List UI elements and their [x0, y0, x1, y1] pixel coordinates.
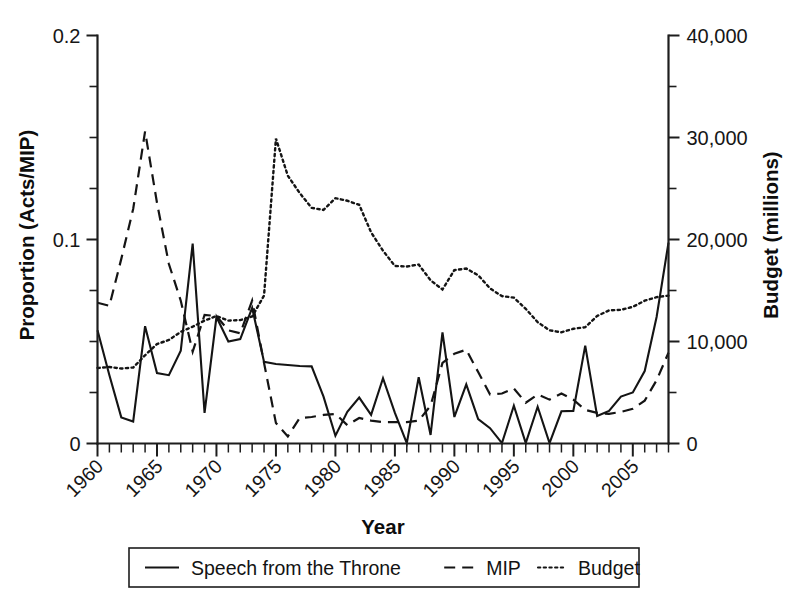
- legend-label: Budget: [578, 557, 640, 579]
- axes-group: 00.10.2010,00020,00030,00040,00019601965…: [53, 25, 748, 502]
- series-group: [98, 131, 669, 443]
- x-tick-label: 1975: [240, 455, 286, 501]
- x-tick-label: 1960: [61, 455, 107, 501]
- legend-label: MIP: [486, 557, 521, 579]
- legend-label: Speech from the Throne: [191, 557, 401, 579]
- line-chart: 00.10.2010,00020,00030,00040,00019601965…: [0, 0, 805, 609]
- plot-area: [98, 131, 669, 443]
- x-tick-label: 1980: [299, 455, 345, 501]
- x-tick-label: 1965: [121, 455, 167, 501]
- y-tick-label-right: 30,000: [687, 127, 748, 149]
- y-tick-label-left: 0: [69, 433, 80, 455]
- x-tick-label: 1970: [180, 455, 226, 501]
- x-tick-label: 1990: [418, 455, 464, 501]
- y-tick-label-left: 0.1: [53, 229, 81, 251]
- chart-legend: Speech from the ThroneMIPBudget: [129, 548, 640, 587]
- series-line-mip: [98, 131, 669, 436]
- x-tick-label: 1995: [477, 455, 523, 501]
- y-tick-label-right: 40,000: [687, 25, 748, 47]
- chart-figure: 00.10.2010,00020,00030,00040,00019601965…: [0, 0, 805, 609]
- x-tick-label: 2005: [596, 455, 642, 501]
- y-axis-title-right: Budget (millions): [759, 151, 782, 318]
- y-tick-label-right: 20,000: [687, 229, 748, 251]
- y-axis-title-left: Proportion (Acts/MIP): [15, 130, 38, 341]
- x-tick-label: 2000: [537, 455, 583, 501]
- y-tick-label-right: 10,000: [687, 331, 748, 353]
- x-tick-label: 1985: [358, 455, 404, 501]
- y-tick-label-left: 0.2: [53, 25, 81, 47]
- x-axis-title: Year: [361, 515, 404, 538]
- series-line-speech-from-the-throne: [98, 243, 669, 444]
- y-tick-label-right: 0: [687, 433, 698, 455]
